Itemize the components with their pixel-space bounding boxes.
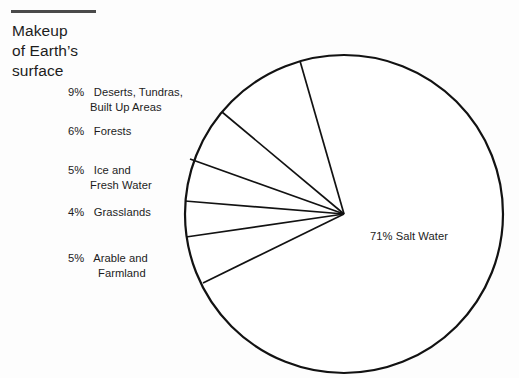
- legend-item-grasslands: 4% Grasslands: [0, 205, 210, 220]
- legend-label: Arable and: [93, 252, 148, 264]
- legend-label: Ice and: [94, 164, 131, 176]
- legend-label: Deserts, Tundras,: [94, 86, 183, 98]
- legend-item-forests: 6% Forests: [0, 124, 210, 139]
- legend-label-line2: Fresh Water: [68, 178, 210, 193]
- legend-label: Grasslands: [94, 206, 151, 218]
- legend-item-ice-and-fresh-water: 5% Ice and Fresh Water: [0, 163, 210, 192]
- salt-water-slice-label: 71% Salt Water: [370, 230, 448, 242]
- pie-chart-figure: Makeup of Earth’s surface 9% Deserts, Tu…: [0, 0, 519, 378]
- legend-label-line2: Built Up Areas: [68, 100, 210, 115]
- legend-item-arable-and-farmland: 5% Arable and Farmland: [0, 251, 210, 280]
- legend-label: Forests: [94, 125, 132, 137]
- legend-percent: 9%: [68, 86, 91, 98]
- legend-label-line2: Farmland: [68, 266, 210, 281]
- legend-percent: 4%: [68, 206, 91, 218]
- legend-percent: 5%: [68, 164, 91, 176]
- legend-percent: 6%: [68, 125, 91, 137]
- legend-item-deserts: 9% Deserts, Tundras, Built Up Areas: [0, 85, 210, 114]
- legend-percent: 5%: [68, 252, 91, 264]
